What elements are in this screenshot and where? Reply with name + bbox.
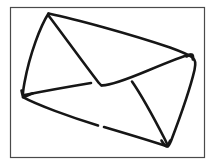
sketch-canvas bbox=[0, 0, 215, 167]
envelope-drawing bbox=[0, 0, 215, 167]
